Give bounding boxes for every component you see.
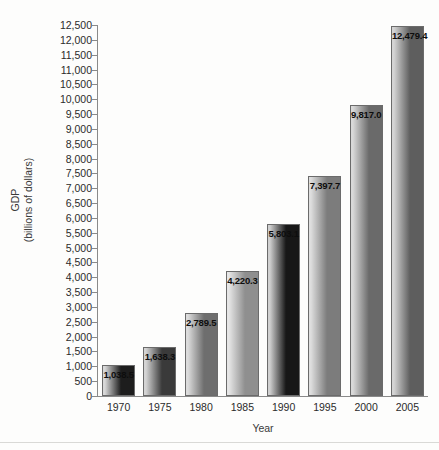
y-tick-label: 11,500 [61,49,92,61]
y-tick-mark [92,351,98,352]
y-tick-label: 6,500 [66,197,92,209]
x-tick-label: 2005 [387,401,428,413]
y-tick-label: 1,000 [66,360,92,372]
y-tick-mark [92,40,98,41]
y-tick-mark [92,248,98,249]
y-tick-mark [92,173,98,174]
y-axis-label-line2: (billions of dollars) [22,158,35,243]
plot-area: 1,038.51,638.32,789.54,220.35,803.17,397… [98,25,428,396]
x-tick-label: 1990 [263,401,304,413]
page-divider [0,442,439,443]
y-tick-label: 9,500 [66,108,92,120]
bar: 9,817.0 [350,105,383,396]
y-tick-label: 7,000 [66,182,92,194]
y-tick-label: 8,000 [66,153,92,165]
y-tick-label: 3,500 [66,286,92,298]
y-tick-mark [92,25,98,26]
bar-value-label: 4,220.3 [227,275,258,286]
y-tick-label: 4,500 [66,256,92,268]
bar-value-label: 5,803.1 [268,228,299,239]
y-tick-mark [92,277,98,278]
y-axis-label-line1: GDP [9,158,22,243]
x-tick-label: 1985 [222,401,263,413]
y-tick-mark [92,84,98,85]
bar: 4,220.3 [226,271,259,396]
bar-value-label: 2,789.5 [186,317,217,328]
y-tick-mark [92,218,98,219]
y-tick-mark [92,292,98,293]
y-tick-label: 7,500 [66,167,92,179]
y-tick-label: 2,000 [66,331,92,343]
bar-value-label: 7,397.7 [309,180,340,191]
x-tick-label: 1995 [304,401,345,413]
bar-value-label: 9,817.0 [351,109,382,120]
y-tick-label: 10,500 [60,78,92,90]
y-axis-tick-labels: 12,50012,00011,50011,00010,50010,0009,50… [38,18,92,403]
bar: 1,038.5 [102,365,135,396]
y-tick-mark [92,233,98,234]
y-tick-label: 8,500 [66,138,92,150]
bar: 2,789.5 [185,313,218,396]
y-tick-label: 1,500 [66,345,92,357]
y-tick-mark [92,129,98,130]
y-tick-mark [92,99,98,100]
y-tick-label: 12,500 [60,19,92,31]
y-tick-mark [92,144,98,145]
y-tick-label: 2,500 [66,316,92,328]
y-tick-label: 3,000 [66,301,92,313]
bar-value-label: 1,038.5 [103,369,134,380]
bar: 7,397.7 [308,176,341,396]
y-tick-mark [92,381,98,382]
x-tick-label: 1980 [181,401,222,413]
x-axis-label: Year [98,422,428,434]
y-tick-mark [92,188,98,189]
y-tick-label: 6,000 [66,212,92,224]
y-tick-mark [92,159,98,160]
x-tick-label: 1970 [98,401,139,413]
y-tick-label: 12,000 [60,34,92,46]
y-tick-mark [92,55,98,56]
x-axis-line [97,396,428,397]
y-tick-label: 9,000 [66,123,92,135]
y-tick-mark [92,114,98,115]
y-tick-label: 5,000 [66,242,92,254]
y-tick-label: 500 [74,375,92,387]
chart-page: GDP (billions of dollars) 12,50012,00011… [0,0,439,450]
y-tick-mark [92,203,98,204]
bar: 1,638.3 [143,347,176,396]
y-tick-mark [92,307,98,308]
y-axis-label-text: GDP (billions of dollars) [9,158,35,243]
bar-value-label: 1,638.3 [144,351,175,362]
bar: 12,479.4 [391,26,424,396]
x-axis-tick-labels: 19701975198019851990199520002005 [98,401,428,417]
y-tick-mark [92,322,98,323]
y-tick-label: 11,000 [61,64,92,76]
bar: 5,803.1 [267,224,300,396]
y-tick-mark [92,262,98,263]
y-tick-mark [92,70,98,71]
y-tick-mark [92,366,98,367]
y-tick-label: 4,000 [66,271,92,283]
y-tick-mark [92,396,98,397]
bar-value-label: 12,479.4 [392,30,423,41]
x-tick-label: 1975 [139,401,180,413]
x-tick-label: 2000 [346,401,387,413]
y-tick-label: 5,500 [66,227,92,239]
y-tick-mark [92,337,98,338]
y-tick-label: 10,000 [60,93,92,105]
